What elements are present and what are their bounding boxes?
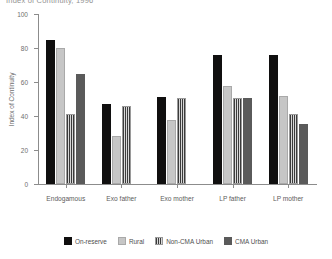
bar-noncma (122, 106, 131, 184)
legend-swatch-rural (118, 237, 126, 245)
legend-label: On-reserve (75, 238, 107, 245)
bar-on-reserve (46, 40, 55, 185)
bar-on-reserve (213, 55, 222, 184)
legend-item: On-reserve (64, 237, 107, 245)
bar-cma (76, 74, 85, 185)
y-axis-tick-label: 100 (17, 11, 28, 18)
x-axis-tick-mark (177, 184, 178, 188)
plot-area: 020406080100 EndogamousExo fatherExo mot… (38, 14, 316, 184)
x-axis-tick-mark (66, 184, 67, 188)
bar-noncma (66, 114, 75, 184)
bar-noncma (177, 98, 186, 184)
legend-label: CMA Urban (235, 238, 268, 245)
bar-on-reserve (269, 55, 278, 184)
bar-on-reserve (102, 104, 111, 184)
legend-item: CMA Urban (224, 237, 268, 245)
legend-swatch-cma (224, 237, 232, 245)
bar-on-reserve (157, 97, 166, 184)
bar-cma (243, 98, 252, 184)
x-axis-tick-label: Endogamous (46, 195, 85, 202)
legend-label: Non-CMA Urban (166, 238, 213, 245)
bar-groups: EndogamousExo fatherExo motherLP fatherL… (38, 14, 316, 184)
chart-legend: On-reserveRuralNon-CMA UrbanCMA Urban (0, 237, 332, 245)
y-axis-tick-mark (34, 184, 38, 185)
legend-label: Rural (129, 238, 144, 245)
chart-title: Index of Continuity, 1996 (6, 0, 93, 5)
bar-rural (112, 136, 121, 184)
y-axis-tick-label: 20 (21, 147, 28, 154)
x-axis-tick-label: LP father (219, 195, 246, 202)
x-axis-tick-mark (288, 184, 289, 188)
bar-group: Endogamous (38, 14, 94, 184)
bar-noncma (289, 114, 298, 184)
bar-rural (56, 48, 65, 184)
bar-rural (279, 96, 288, 184)
legend-item: Rural (118, 237, 144, 245)
y-axis-tick-label: 80 (21, 45, 28, 52)
chart-figure: Index of Continuity, 1996 Index of Conti… (0, 0, 332, 259)
x-axis-tick-label: Exo mother (160, 195, 194, 202)
y-axis-label: Index of Continuity (7, 14, 17, 184)
y-axis-tick-label: 60 (21, 79, 28, 86)
y-axis-tick: 0 (34, 184, 39, 185)
bar-rural (223, 86, 232, 184)
bar-group: LP father (205, 14, 261, 184)
y-axis-tick-label: 0 (24, 181, 28, 188)
legend-item: Non-CMA Urban (155, 237, 213, 245)
x-axis-tick-label: LP mother (273, 195, 303, 202)
bar-group: Exo father (94, 14, 150, 184)
bar-group: LP mother (260, 14, 316, 184)
x-axis-tick-label: Exo father (106, 195, 136, 202)
y-axis-tick-label: 40 (21, 113, 28, 120)
bar-rural (167, 120, 176, 184)
bar-noncma (233, 98, 242, 184)
legend-swatch-on-reserve (64, 237, 72, 245)
x-axis-tick-mark (233, 184, 234, 188)
bar-cma (299, 124, 308, 184)
y-axis-label-text: Index of Continuity (9, 72, 16, 126)
legend-swatch-noncma (155, 237, 163, 245)
bar-group: Exo mother (149, 14, 205, 184)
x-axis-tick-mark (121, 184, 122, 188)
